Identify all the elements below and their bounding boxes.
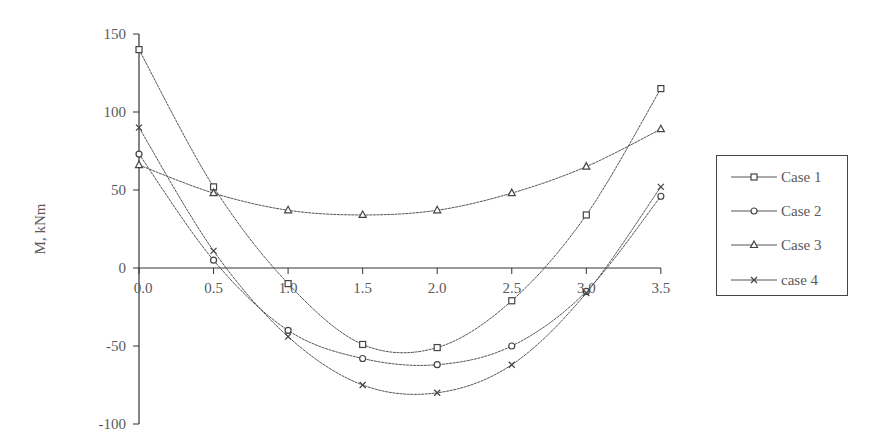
x-tick-label: 0.0 <box>134 280 153 296</box>
y-tick-label: 100 <box>104 104 127 120</box>
x-icon <box>731 270 777 290</box>
x-tick-label: 1.5 <box>353 280 372 296</box>
legend-label: Case 3 <box>781 237 821 254</box>
square-icon <box>731 167 777 187</box>
series-case-3 <box>136 125 665 217</box>
x-tick-label: 0.5 <box>204 280 223 296</box>
y-tick-label: 0 <box>119 260 127 276</box>
series-case-1 <box>136 47 664 353</box>
legend-label: Case 2 <box>781 203 821 220</box>
legend-label: Case 1 <box>781 169 821 186</box>
y-tick-label: -50 <box>106 338 126 354</box>
legend-item-case-2: Case 2 <box>717 201 847 221</box>
legend-item-case-3: Case 3 <box>717 235 847 255</box>
series-layer <box>136 47 665 396</box>
x-tick-label: 2.0 <box>428 280 447 296</box>
triangle-icon <box>731 235 777 255</box>
legend-label: case 4 <box>781 272 818 289</box>
legend-item-case-1: Case 1 <box>717 167 847 187</box>
legend: Case 1 Case 2 Case 3 case 4 <box>716 155 848 296</box>
x-tick-label: 2.5 <box>502 280 521 296</box>
legend-item-case-4: case 4 <box>717 270 847 290</box>
y-axis-title: M, kNm <box>32 203 48 254</box>
y-tick-label: 50 <box>111 182 126 198</box>
x-tick-label: 3.5 <box>651 280 670 296</box>
y-tick-label: -100 <box>99 416 127 432</box>
y-tick-label: 150 <box>104 26 127 42</box>
y-axis: 150100500-50-100 <box>99 26 140 432</box>
circle-icon <box>731 201 777 221</box>
